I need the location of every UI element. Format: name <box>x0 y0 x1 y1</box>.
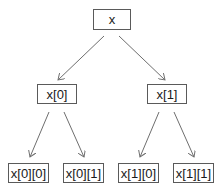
edge-x-to-x0 <box>58 36 104 80</box>
edge-x1-to-x10 <box>140 112 159 157</box>
edge-x-to-x1 <box>119 36 165 80</box>
node-x00: x[0][0] <box>8 163 49 183</box>
edge-x0-to-x00 <box>30 112 49 157</box>
edge-x1-to-x11 <box>174 112 194 157</box>
node-label: x[1] <box>157 88 178 101</box>
node-label: x[0][1] <box>66 167 101 180</box>
node-label: x <box>109 13 116 26</box>
tree-diagram: x x[0] x[1] x[0][0] x[0][1] x[1][0] x[1]… <box>0 0 223 192</box>
node-root-x: x <box>93 9 131 30</box>
node-label: x[0] <box>47 88 68 101</box>
node-x01: x[0][1] <box>63 163 104 183</box>
node-x0: x[0] <box>37 84 77 104</box>
node-label: x[0][0] <box>11 167 46 180</box>
node-label: x[1][1] <box>176 167 211 180</box>
node-label: x[1][0] <box>121 167 156 180</box>
node-x10: x[1][0] <box>118 163 159 183</box>
node-x11: x[1][1] <box>173 163 214 183</box>
edge-x0-to-x01 <box>64 112 84 157</box>
node-x1: x[1] <box>147 84 187 104</box>
